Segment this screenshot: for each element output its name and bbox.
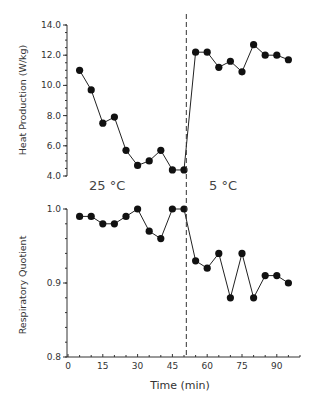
y-tick-label: 0.9 [47,278,62,288]
chart-canvas: 4.06.08.010.012.014.0 0.80.91.0015304560… [0,0,316,404]
x-tick-label: 15 [97,361,108,371]
y-tick-label: 14.0 [41,20,61,30]
data-point [76,67,83,74]
data-point [88,213,95,220]
data-point [146,228,153,235]
data-point [169,166,176,173]
data-point [192,49,199,56]
data-point [262,52,269,59]
x-tick-label: 30 [132,361,144,371]
data-point [192,257,199,264]
x-tick-label: 75 [236,361,247,371]
data-point [146,157,153,164]
x-tick-label: 90 [271,361,283,371]
x-axis-title: Time (min) [149,379,210,392]
condition-label-25c: 25 °C [89,178,125,193]
data-point [273,272,280,279]
x-tick-label: 60 [201,361,213,371]
y-tick-label: 10.0 [41,80,61,90]
data-point [250,41,257,48]
data-point [204,265,211,272]
x-tick-label: 0 [65,361,71,371]
data-point [238,68,245,75]
figure: 4.06.08.010.012.014.0 0.80.91.0015304560… [0,0,316,404]
y-tick-label: 12.0 [41,50,61,60]
data-point [285,279,292,286]
data-point [88,86,95,93]
data-point [122,147,129,154]
y-tick-label: 0.8 [47,352,62,362]
y-tick-label: 4.0 [47,171,62,181]
x-tick-label: 45 [167,361,178,371]
respiratory-quotient-panel: 0.80.91.00153045607590 [47,204,300,371]
bottom-y-axis-title: Respiratory Quotient [17,235,28,334]
series-line [80,45,289,170]
data-point [122,213,129,220]
data-point [134,162,141,169]
data-point [111,114,118,121]
data-point [227,58,234,65]
data-point [169,205,176,212]
data-point [215,64,222,71]
data-point [238,250,245,257]
series-line [80,209,289,298]
condition-label-5c: 5 °C [209,178,237,193]
data-point [99,120,106,127]
top-y-axis-title: Heat Production (W/kg) [17,45,28,156]
data-point [76,213,83,220]
data-point [250,294,257,301]
data-point [215,250,222,257]
data-point [99,220,106,227]
data-point [111,220,118,227]
y-tick-label: 1.0 [47,204,62,214]
data-point [134,205,141,212]
data-point [262,272,269,279]
data-point [273,52,280,59]
data-point [157,147,164,154]
data-point [204,49,211,56]
data-point [285,56,292,63]
y-tick-label: 8.0 [47,111,62,121]
y-tick-label: 6.0 [47,141,62,151]
heat-production-panel: 4.06.08.010.012.014.0 [41,20,292,181]
data-point [227,294,234,301]
data-point [157,235,164,242]
